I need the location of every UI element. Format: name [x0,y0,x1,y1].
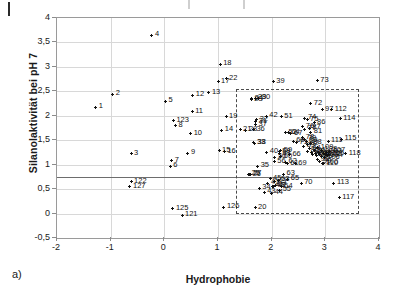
point-label: 125 [176,203,189,212]
point-marker-icon [111,93,114,96]
point-marker-icon [172,119,175,122]
point-marker-icon [330,108,333,111]
point-label: 55 [283,184,291,193]
point-marker-icon [186,152,189,155]
point-label: 127 [133,181,146,190]
y-tick-label: 1 [4,159,50,169]
point-marker-icon [302,145,305,148]
point-label: 39 [276,76,284,85]
point-label: 66 [292,149,300,158]
y-tick-mark [52,90,56,91]
point-marker-icon [306,150,309,153]
y-tick-label: 1,5 [4,134,50,144]
point-marker-icon [225,77,228,80]
point-marker-icon [295,141,298,144]
y-tick-mark [52,139,56,140]
x-tick-label: -1 [90,242,130,252]
point-label: 9 [191,147,195,156]
point-marker-icon [181,214,184,217]
x-tick-mark [324,237,325,241]
y-tick-mark [52,115,56,116]
point-label: 37 [259,119,267,128]
point-label: 114 [343,113,355,122]
point-marker-icon [321,108,324,111]
point-label: 123 [176,115,189,124]
x-tick-label: 3 [304,242,344,252]
y-tick-label: -0,5 [4,232,50,242]
point-marker-icon [316,146,319,149]
y-tick-label: 3,5 [4,36,50,46]
point-marker-icon [270,192,273,195]
x-gridline [218,18,219,238]
point-label: 35 [261,160,269,169]
point-marker-icon [339,117,342,120]
point-marker-icon [253,142,256,145]
point-label: 69 [298,158,306,167]
point-label: 18 [223,58,231,67]
point-label: 30 [262,92,270,101]
point-marker-icon [272,80,275,83]
point-marker-icon [254,206,257,209]
point-marker-icon [327,140,330,143]
point-marker-icon [308,127,311,130]
y-tick-mark [52,213,56,214]
y-tick-label: 0 [4,208,50,218]
point-marker-icon [280,115,283,118]
point-marker-icon [273,160,276,163]
y-tick-label: 2 [4,110,50,120]
point-marker-icon [322,162,325,165]
point-label: 42 [269,110,277,119]
point-marker-icon [279,149,282,152]
y-tick-label: 3 [4,61,50,71]
x-tick-label: 2 [251,242,291,252]
point-label: 27 [253,168,261,177]
point-label: 51 [284,111,292,120]
point-marker-icon [316,79,319,82]
point-marker-icon [286,178,289,181]
point-marker-icon [249,173,252,176]
x-tick-mark [110,237,111,241]
point-marker-icon [282,173,285,176]
x-tick-mark [217,237,218,241]
point-marker-icon [244,129,247,132]
point-marker-icon [223,150,226,153]
point-marker-icon [254,97,257,100]
x-tick-label: 4 [358,242,398,252]
point-marker-icon [266,182,269,185]
point-marker-icon [263,191,266,194]
point-label: 118 [349,148,361,157]
x-axis-title: Hydrophobie [56,273,380,285]
point-label: 73 [320,75,328,84]
point-marker-icon [344,152,347,155]
x-tick-label: 1 [197,242,237,252]
point-label: 115 [344,133,356,142]
x-tick-label: 0 [143,242,183,252]
point-label: 13 [212,87,220,96]
x-tick-mark [56,237,57,241]
x-tick-label: -2 [36,242,76,252]
point-marker-icon [288,153,291,156]
point-marker-icon [128,185,131,188]
point-label: 4 [155,29,159,38]
scan-artifact-strip [0,0,415,9]
point-marker-icon [174,124,177,127]
point-marker-icon [294,162,297,165]
point-marker-icon [189,132,192,135]
plot-area[interactable]: 1234567891011121314151617181920212223242… [56,17,380,239]
point-marker-icon [164,100,167,103]
point-marker-icon [217,80,220,83]
point-marker-icon [284,161,287,164]
point-label: 110 [326,158,338,167]
figure-panel: Silanolaktivität bei pH 7 Hydrophobie a)… [0,0,415,293]
point-label: 113 [337,177,349,186]
point-marker-icon [273,156,276,159]
point-label: 11 [195,106,203,115]
point-marker-icon [169,165,172,168]
point-label: 65 [291,173,299,182]
point-marker-icon [303,128,306,131]
point-label: 38 [257,137,265,146]
point-label: 22 [229,73,237,82]
point-marker-icon [309,142,312,145]
point-marker-icon [279,155,282,158]
point-marker-icon [254,123,257,126]
